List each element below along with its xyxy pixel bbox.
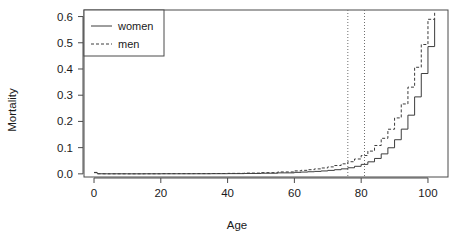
x-tick-label-0: 0 (91, 187, 97, 199)
y-tick-label-4: 0.4 (57, 63, 74, 75)
y-tick-label-6: 0.6 (57, 11, 73, 23)
x-tick-label-1: 20 (154, 187, 167, 199)
y-axis-title: Mortality (6, 88, 18, 132)
x-axis-title: Age (227, 219, 247, 231)
y-tick-label-5: 0.5 (57, 37, 73, 49)
legend-label-men: men (118, 38, 139, 50)
y-tick-label-2: 0.2 (57, 115, 73, 127)
x-tick-label-4: 80 (355, 187, 368, 199)
mortality-chart-figure: 020406080100 0.00.10.20.30.40.50.6 Age M… (0, 0, 469, 242)
mortality-chart-canvas: 020406080100 0.00.10.20.30.40.50.6 Age M… (0, 0, 469, 242)
chart-legend: womenmen (84, 10, 164, 56)
x-tick-label-3: 60 (288, 187, 301, 199)
y-tick-label-0: 0.0 (57, 168, 73, 180)
legend-label-women: women (117, 20, 153, 32)
x-tick-label-5: 100 (418, 187, 437, 199)
y-tick-label-3: 0.3 (57, 89, 73, 101)
y-tick-label-1: 0.1 (57, 142, 73, 154)
x-tick-label-2: 40 (221, 187, 234, 199)
